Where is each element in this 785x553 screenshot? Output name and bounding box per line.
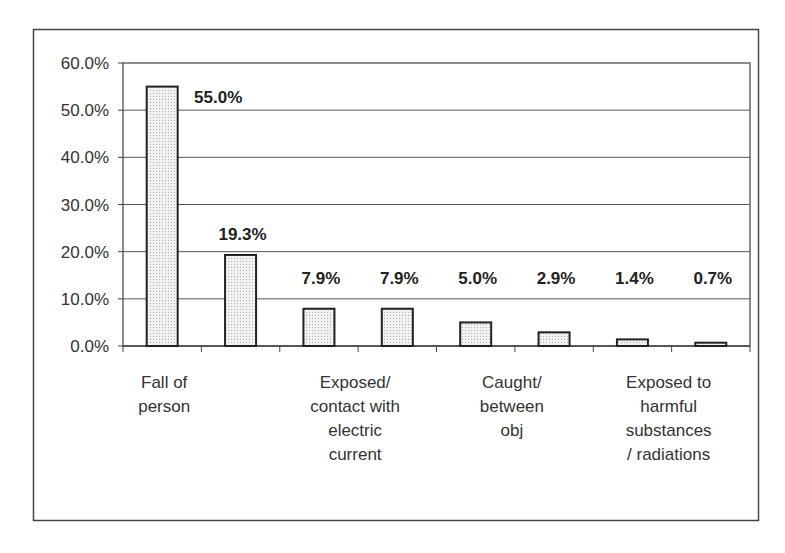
y-tick-label: 10.0%: [61, 290, 109, 309]
bar: [539, 332, 570, 346]
y-tick-label: 40.0%: [61, 148, 109, 167]
bar: [617, 339, 648, 346]
y-tick-label: 60.0%: [61, 54, 109, 73]
data-label: 2.9%: [537, 269, 576, 288]
data-label: 5.0%: [458, 269, 497, 288]
y-tick-label: 30.0%: [61, 196, 109, 215]
data-label: 0.7%: [693, 269, 732, 288]
y-tick-label: 20.0%: [61, 243, 109, 262]
y-tick-label: 0.0%: [70, 337, 109, 356]
bar-chart: 0.0%10.0%20.0%30.0%40.0%50.0%60.0% 55.0%…: [0, 0, 785, 553]
bar: [147, 87, 178, 346]
data-label: 55.0%: [194, 88, 242, 107]
y-tick-label: 50.0%: [61, 101, 109, 120]
bar: [695, 343, 726, 346]
bar: [303, 309, 334, 346]
bar: [382, 309, 413, 346]
data-label: 7.9%: [380, 269, 419, 288]
data-label: 7.9%: [302, 269, 341, 288]
data-label: 19.3%: [218, 225, 266, 244]
data-label: 1.4%: [615, 269, 654, 288]
bar: [225, 255, 256, 346]
bar: [460, 322, 491, 346]
